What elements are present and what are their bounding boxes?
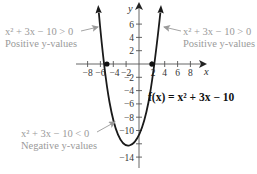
function-label: f(x) = x² + 3x − 10 [148, 91, 235, 104]
x-tick-label: −8 [83, 68, 93, 78]
x-axis-label: x [203, 66, 209, 77]
y-tick-label: −10 [119, 126, 134, 136]
y-tick-label: −6 [124, 99, 134, 109]
svg-text:Positive y-values: Positive y-values [5, 38, 77, 49]
y-tick-label: −2 [124, 73, 134, 83]
y-tick-label: −4 [124, 86, 134, 96]
root-point-2 [149, 61, 154, 66]
y-tick-label: 2 [129, 46, 134, 56]
y-tick-label: 4 [129, 33, 134, 43]
y-tick-label: −8 [124, 113, 134, 123]
svg-text:x² + 3x − 10 > 0: x² + 3x − 10 > 0 [183, 26, 251, 37]
root-point-minus5 [104, 61, 109, 66]
curve-arrow-right-icon [158, 5, 164, 14]
y-axis-label: y [127, 3, 133, 14]
x-tick-label: 6 [175, 68, 180, 78]
y-tick-label: 6 [129, 20, 134, 30]
x-tick-label: 4 [162, 68, 167, 78]
annotation-negative: x² + 3x − 10 < 0 Negative y-values [21, 122, 115, 151]
curve-arrow-left-icon [96, 5, 102, 14]
svg-text:x² + 3x − 10 > 0: x² + 3x − 10 > 0 [5, 26, 73, 37]
svg-text:Negative y-values: Negative y-values [21, 140, 97, 151]
annotation-right-positive: x² + 3x − 10 > 0 Positive y-values [164, 26, 255, 49]
svg-text:Positive y-values: Positive y-values [183, 38, 255, 49]
svg-text:x² + 3x − 10 < 0: x² + 3x − 10 < 0 [21, 128, 89, 139]
parabola-graph: −8 −6 −4 −2 2 4 6 8 x 6 4 2 −2 −4 −6 −8 … [0, 0, 257, 174]
y-tick-label: −14 [119, 153, 134, 163]
annotation-left-positive: x² + 3x − 10 > 0 Positive y-values [5, 26, 98, 49]
x-tick-label: −4 [109, 68, 119, 78]
x-tick-label: 8 [188, 68, 193, 78]
